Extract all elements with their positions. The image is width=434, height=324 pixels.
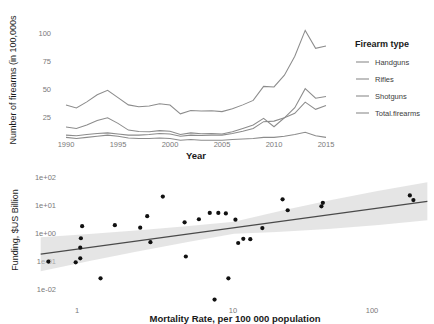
scatter-point [98,276,102,280]
legend-label-rifles: Rifles [375,75,394,84]
top-xtick-1990: 1990 [58,140,75,149]
scatter-point [241,237,245,241]
top-xtick-1995: 1995 [110,140,127,149]
scatter-point [80,224,84,228]
scatter-point [280,197,284,201]
top-ytick-100: 100 [38,29,51,38]
scatter-point [248,237,252,241]
legend-label-total-firearms: Total.firearms [375,109,420,118]
scatter-point [226,276,230,280]
scatter-point [208,211,212,215]
bottom-ytick-1e1: 1e+01 [35,201,56,210]
confidence-band [41,182,428,271]
legend-item-handguns[interactable]: Handguns [356,58,409,67]
scatter-point [216,211,220,215]
top-ytick-50: 50 [43,85,51,94]
legend-label-shotguns: Shotguns [375,92,407,101]
scatter-point [411,198,415,202]
scatter-point [321,201,325,205]
top-xtick-2005: 2005 [214,140,231,149]
legend-title: Firearm type [355,39,409,49]
scatter-point [224,211,228,215]
scatter-point [148,240,152,244]
legend-item-shotguns[interactable]: Shotguns [356,92,407,101]
bottom-ytick-1e2: 1e+02 [35,173,56,182]
scatter-point [78,246,82,250]
scatter-point [286,208,290,212]
bottom-y-axis-title: Funding, $US Billion [10,189,20,271]
scatter-point [233,218,237,222]
funding-vs-mortality-panel: Funding, $US Billion 1e+02 1e+01 1e+00 1… [0,158,434,324]
firearms-timeseries-panel: Number of firearms (in 100,000s 100 75 5… [0,0,434,162]
series-line-total-firearms [66,30,326,113]
top-y-axis-title: Number of firearms (in 100,000s [8,15,18,145]
series-line-handguns [66,89,326,135]
scatter-point [79,236,83,240]
scatter-point [46,260,50,264]
top-x-ticks: 1990 1995 2000 2005 2010 2015 [58,140,335,149]
top-xtick-2000: 2000 [162,140,179,149]
top-ytick-25: 25 [43,113,51,122]
series-line-rifles [66,102,326,136]
legend: Firearm type Handguns Rifles Shotguns To… [355,39,420,118]
top-series-group [66,30,326,140]
bottom-xtick-100: 100 [366,306,379,315]
scatter-point [183,220,187,224]
top-xtick-2015: 2015 [318,140,335,149]
scatter-point [74,260,78,264]
scatter-point [197,217,201,221]
scatter-point [161,194,165,198]
scatter-point [260,226,264,230]
scatter-point [212,297,216,301]
top-ytick-75: 75 [43,57,51,66]
top-xtick-2010: 2010 [266,140,283,149]
bottom-xtick-1: 1 [75,306,79,315]
bottom-ytick-1em2: 1e-02 [37,285,56,294]
legend-label-handguns: Handguns [375,58,409,67]
legend-item-total-firearms[interactable]: Total.firearms [356,109,420,118]
scatter-point [408,193,412,197]
scatter-point [113,223,117,227]
funding-vs-mortality-svg: Funding, $US Billion 1e+02 1e+01 1e+00 1… [0,158,434,324]
bottom-x-axis-title: Mortality Rate, per 100 000 population [149,313,320,324]
figure-container: Number of firearms (in 100,000s 100 75 5… [0,0,434,324]
scatter-point [184,254,188,258]
scatter-point [236,241,240,245]
legend-item-rifles[interactable]: Rifles [356,75,394,84]
bottom-y-ticks: 1e+02 1e+01 1e+00 1e-01 1e-02 [35,173,56,294]
regression-line [41,201,428,254]
firearms-timeseries-svg: Number of firearms (in 100,000s 100 75 5… [0,0,434,162]
scatter-point [78,256,82,260]
top-y-ticks: 100 75 50 25 [38,29,51,122]
scatter-point [138,226,142,230]
scatter-point [145,214,149,218]
